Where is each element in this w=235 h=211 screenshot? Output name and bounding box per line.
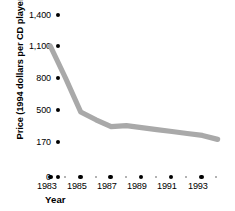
x-tick-1986 [95, 176, 97, 178]
x-tick-1983 [48, 175, 53, 180]
x-tick-1993 [199, 175, 204, 180]
x-tick-1987 [108, 175, 113, 180]
x-tick-label-1985: 1985 [67, 181, 87, 191]
x-tick-label-1987: 1987 [97, 181, 117, 191]
x-tick-1988 [125, 176, 127, 178]
x-tick-1985 [78, 175, 83, 180]
chart-container: Price (1994 dollars per CD player) 1,400… [0, 0, 235, 211]
plot-area [0, 0, 235, 211]
price-line-series [50, 46, 217, 139]
x-tick-label-1993: 1993 [188, 181, 208, 191]
x-tick-label-1983: 1983 [37, 181, 57, 191]
x-axis-title: Year [45, 194, 66, 205]
x-tick-1990 [155, 176, 157, 178]
x-tick-label-1989: 1989 [127, 181, 147, 191]
x-tick-label-1991: 1991 [157, 181, 177, 191]
